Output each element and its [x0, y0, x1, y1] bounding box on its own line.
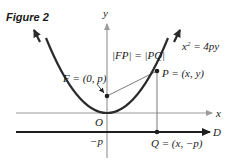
point-q [155, 130, 160, 135]
neg-p-label: −p [90, 135, 103, 147]
focus-pointer [97, 84, 104, 93]
distance-relation: |FP| = |PQ| [112, 49, 165, 61]
x-axis-label: x [215, 107, 221, 119]
y-axis-label: y [102, 7, 108, 19]
parabola-diagram: y x O −p D F = (0, p) P = (x, y) Q = (x,… [0, 0, 231, 162]
origin-label: O [95, 116, 103, 128]
point-p-label: P = (x, y) [161, 67, 204, 80]
point-p [155, 69, 160, 74]
focus-point [105, 94, 110, 99]
parabola-arrow-right [174, 30, 180, 42]
focus-label: F = (0, p) [62, 72, 107, 85]
curve-equation: x2 = 4py [181, 40, 219, 52]
curve-equation-rhs: = 4py [190, 40, 219, 52]
point-q-label: Q = (x, −p) [151, 137, 203, 150]
directrix-label: D [212, 126, 221, 138]
parabola-arrow-left [34, 30, 40, 42]
